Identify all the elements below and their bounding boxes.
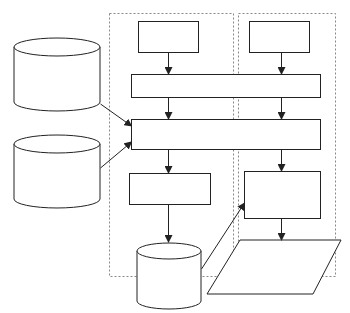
lower-right-box	[245, 172, 321, 219]
lower-left-box	[130, 174, 211, 205]
output-parallelogram	[207, 240, 341, 294]
flow-diagram	[0, 0, 350, 313]
top-right-box	[250, 22, 310, 53]
db-bottom-cylinder	[137, 243, 201, 309]
arrow-a6	[101, 142, 132, 168]
db-left-bottom-cylinder	[14, 135, 100, 208]
arrow-a5	[101, 104, 132, 126]
top-left-box	[139, 22, 199, 53]
wide-box-2	[132, 120, 321, 150]
db-left-top-cylinder	[14, 38, 100, 111]
wide-box-1	[132, 75, 321, 98]
diagram-canvas	[0, 0, 350, 313]
